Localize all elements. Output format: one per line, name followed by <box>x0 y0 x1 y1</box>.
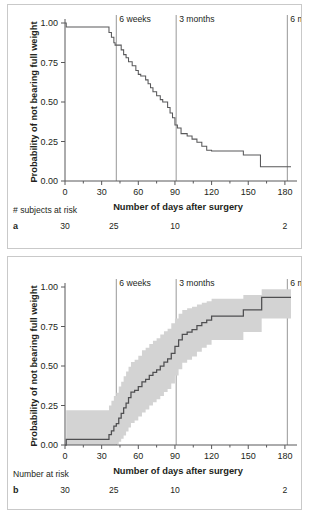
x-tick-label: 180 <box>277 451 292 461</box>
km-step-curve <box>65 23 291 167</box>
reference-label-6-months: 6 months <box>290 278 301 288</box>
x-tick-label: 0 <box>62 451 67 461</box>
reference-label-3-months: 3 months <box>179 14 214 24</box>
y-axis-title: Probability of not bearing full weight <box>29 21 39 182</box>
x-tick-label: 30 <box>97 187 107 197</box>
x-tick-label: 30 <box>97 451 107 461</box>
panel-a-chart: 6 weeks3 months6 months0.000.250.500.751… <box>8 5 301 248</box>
y-tick-label: 0.00 <box>40 440 58 450</box>
x-tick-label: 150 <box>241 187 256 197</box>
reference-label-6-months: 6 months <box>290 14 301 24</box>
x-axis-title: Number of days after surgery <box>113 202 244 212</box>
x-tick-label: 0 <box>62 187 67 197</box>
x-tick-label: 90 <box>170 451 180 461</box>
risk-value: 30 <box>60 485 70 495</box>
y-tick-label: 0.75 <box>40 322 58 332</box>
y-tick-label: 0.50 <box>40 361 58 371</box>
panel-a: 6 weeks3 months6 months0.000.250.500.751… <box>7 4 302 249</box>
risk-value: 10 <box>170 485 180 495</box>
risk-value: 25 <box>109 485 119 495</box>
y-tick-label: 0.25 <box>40 401 58 411</box>
y-tick-label: 1.00 <box>40 18 58 28</box>
panel-b: 6 weeks3 months6 months0.000.250.500.751… <box>7 256 302 510</box>
kaplan-meier-figure: 6 weeks3 months6 months0.000.250.500.751… <box>0 0 311 516</box>
x-tick-label: 120 <box>204 451 219 461</box>
risk-row-title: Number at risk <box>13 469 70 479</box>
x-tick-label: 90 <box>170 187 180 197</box>
x-tick-label: 150 <box>241 451 256 461</box>
risk-value: 2 <box>283 221 288 231</box>
x-tick-label: 120 <box>204 187 219 197</box>
y-tick-label: 0.00 <box>40 176 58 186</box>
panel-letter: a <box>13 221 19 231</box>
reference-label-3-months: 3 months <box>179 278 214 288</box>
y-tick-label: 0.25 <box>40 137 58 147</box>
confidence-band <box>65 289 291 445</box>
panel-letter: b <box>13 485 19 495</box>
risk-value: 30 <box>60 221 70 231</box>
y-tick-label: 0.75 <box>40 58 58 68</box>
x-axis-title: Number of days after surgery <box>113 466 244 476</box>
reference-label-6-weeks: 6 weeks <box>119 14 151 24</box>
risk-value: 25 <box>109 221 119 231</box>
risk-row-title: # subjects at risk <box>13 205 78 215</box>
y-tick-label: 0.50 <box>40 97 58 107</box>
x-tick-label: 180 <box>277 187 292 197</box>
x-tick-label: 60 <box>133 451 143 461</box>
reference-label-6-weeks: 6 weeks <box>119 278 151 288</box>
panel-b-chart: 6 weeks3 months6 months0.000.250.500.751… <box>8 257 301 509</box>
x-tick-label: 60 <box>133 187 143 197</box>
y-axis-title: Probability of not bearing full weight <box>29 285 39 446</box>
y-tick-label: 1.00 <box>40 282 58 292</box>
risk-value: 10 <box>170 221 180 231</box>
risk-value: 2 <box>283 485 288 495</box>
